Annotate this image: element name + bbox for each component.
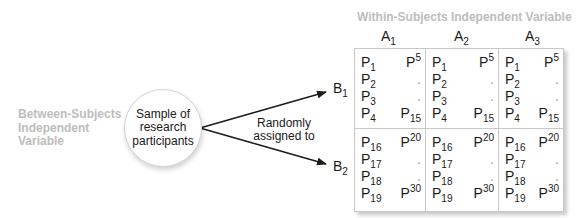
b2-label: B2 [333, 158, 348, 174]
sample-line3: participants [132, 135, 193, 149]
assignment-line2: assigned to [240, 130, 328, 143]
sample-circle: Sample of research participants [124, 89, 202, 167]
within-subjects-label: Within-Subjects Independent Variable [357, 11, 572, 25]
a2-label: A2 [454, 28, 469, 44]
cell-b2-a2: P16 P17 P18 P19 P20 . . P30 [426, 129, 499, 211]
sample-line2: research [132, 121, 193, 135]
between-label-line3: Variable [18, 135, 128, 149]
between-label-line2: Independent [18, 122, 128, 136]
between-label-line1: Between-Subjects [18, 108, 128, 122]
sample-line1: Sample of [132, 108, 193, 122]
b1-label: B1 [333, 80, 348, 96]
cell-b1-a2: P1 P2 P3 P4 P5 . . P15 [426, 49, 499, 129]
a3-label: A3 [525, 28, 540, 44]
a1-label: A1 [381, 28, 396, 44]
design-grid: P1 P2 P3 P4 P5 . . P15 P1 P2 P3 P4 P5 . … [354, 48, 564, 212]
between-subjects-label: Between-Subjects Independent Variable [18, 108, 128, 149]
cell-b1-a1: P1 P2 P3 P4 P5 . . P15 [355, 49, 426, 129]
random-assignment-label: Randomly assigned to [240, 117, 328, 143]
cell-b1-a3: P1 P2 P3 P4 P5 . . P15 [499, 49, 563, 129]
cell-b2-a1: P16 P17 P18 P19 P20 . . P30 [355, 129, 426, 211]
cell-b2-a3: P16 P17 P18 P19 P20 . . P30 [499, 129, 563, 211]
